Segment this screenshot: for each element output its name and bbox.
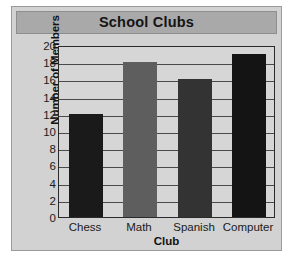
chart-title: School Clubs [99, 15, 194, 30]
x-axis-title: Club [58, 235, 275, 247]
y-axis-tick-label: 6 [34, 160, 56, 172]
y-axis-tick-label: 12 [34, 109, 56, 121]
bar [69, 114, 103, 217]
y-axis-tick-label: 8 [34, 143, 56, 155]
y-axis-tick-label: 16 [34, 74, 56, 86]
chart-panel: School Clubs Number of Members 201816141… [11, 6, 282, 251]
bar [178, 79, 212, 217]
x-axis-tick-label: Math [112, 220, 166, 234]
x-axis-tick-label: Spanish [167, 220, 221, 234]
y-axis-tick-label: 18 [34, 57, 56, 69]
bar [232, 54, 266, 217]
x-axis-tick-labels: ChessMathSpanishComputer [58, 220, 275, 235]
bars-layer [59, 47, 274, 217]
y-axis-tick-label: 20 [34, 40, 56, 52]
y-axis-tick-label: 10 [34, 126, 56, 138]
y-axis-tick-label: 2 [34, 195, 56, 207]
x-axis-tick-label: Chess [58, 220, 112, 234]
y-axis-tick-label: 0 [34, 212, 56, 224]
y-axis-tick-label: 14 [34, 92, 56, 104]
x-axis-tick-label: Computer [221, 220, 275, 234]
plot-area [58, 46, 275, 218]
y-axis-tick-labels: 20181614121086420 [34, 46, 56, 218]
bar [123, 62, 157, 217]
y-axis-tick-label: 4 [34, 178, 56, 190]
